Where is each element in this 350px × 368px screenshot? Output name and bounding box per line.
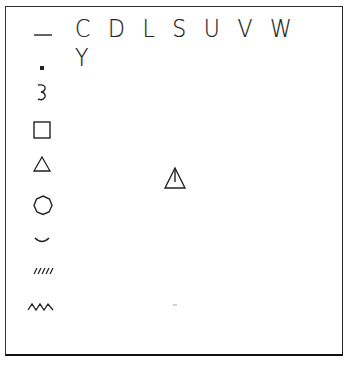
header-letters: C D L S U V W Y [75,14,317,72]
underscore-dash-icon [33,33,53,37]
open-square-icon [32,120,52,140]
small-filled-square-icon [39,65,45,71]
open-triangle-icon [32,155,52,173]
triangle-with-line-icon [163,165,187,191]
three-curve-icon [35,82,49,102]
open-heptagon-icon [32,194,54,216]
speck-mark [173,304,177,306]
smile-arc-icon [33,236,51,246]
zigzag-wave-icon [27,302,55,312]
hatched-slashes-icon [32,266,54,276]
